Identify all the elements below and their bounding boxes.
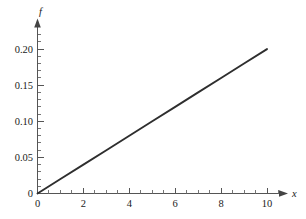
data-line-f (38, 49, 268, 193)
y-minor-ticks (38, 35, 42, 187)
x-axis-arrow-icon (279, 190, 288, 197)
x-tick-labels: 0 2 4 6 8 10 (35, 198, 272, 209)
y-tick-label: 0 (28, 188, 33, 199)
x-axis-label: x (291, 188, 297, 199)
y-tick-label: 0.20 (15, 44, 33, 55)
x-tick-label: 6 (173, 198, 178, 209)
chart-container: f x (0, 0, 306, 219)
y-tick-label: 0.05 (15, 152, 33, 163)
line-chart: f x (0, 0, 306, 219)
x-tick-label: 0 (35, 198, 40, 209)
y-axis-arrow-icon (34, 19, 41, 28)
y-axis-label: f (39, 6, 44, 17)
x-tick-label: 2 (81, 198, 86, 209)
data-series-group (38, 49, 268, 193)
y-tick-label: 0.15 (15, 80, 33, 91)
x-tick-label: 10 (262, 198, 273, 209)
y-tick-labels: 0 0.05 0.10 0.15 0.20 (15, 44, 33, 199)
x-tick-label: 4 (127, 198, 133, 209)
y-tick-label: 0.10 (15, 116, 33, 127)
x-axis-group: x (38, 188, 298, 199)
x-tick-label: 8 (218, 198, 223, 209)
